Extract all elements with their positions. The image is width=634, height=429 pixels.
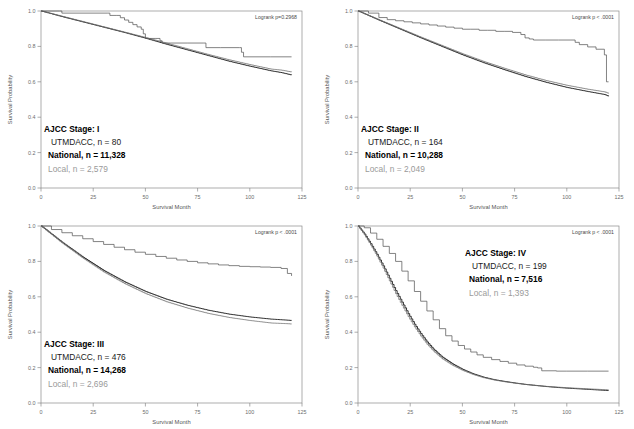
x-tick-label: 75	[512, 409, 518, 415]
y-tick-label: 0.0	[345, 185, 353, 191]
y-tick-label: 1.0	[28, 223, 36, 229]
y-tick-label: 0.0	[28, 400, 36, 406]
y-axis-title: Survival Probability	[324, 290, 330, 339]
y-tick-label: 0.6	[345, 294, 353, 300]
y-axis-title: Survival Probability	[7, 75, 13, 124]
annotation-local-label: Local, n = 2,696	[48, 379, 108, 389]
curve-utmdacc	[41, 226, 292, 276]
x-tick-label: 125	[298, 409, 307, 415]
survival-curve-figure: 02550751001251.00.80.60.40.20.0Survival …	[0, 0, 634, 429]
annotation-utmdacc-label: UTMDACC, n = 164	[368, 137, 443, 147]
y-tick-label: 1.0	[28, 8, 36, 14]
x-tick-label: 25	[407, 194, 413, 200]
y-tick-label: 0.6	[345, 79, 353, 85]
annotation-stage-label: AJCC Stage: II	[361, 124, 419, 134]
annotation-utmdacc-label: UTMDACC, n = 476	[51, 352, 126, 362]
logrank-pvalue-label: Logrank p < .0001	[572, 14, 614, 20]
x-axis-title: Survival Month	[152, 204, 190, 210]
x-tick-label: 0	[357, 409, 360, 415]
x-tick-label: 50	[142, 194, 148, 200]
x-tick-label: 100	[562, 194, 571, 200]
annotation-national-label: National, n = 11,328	[48, 150, 126, 160]
x-tick-label: 125	[615, 409, 624, 415]
y-tick-label: 0.0	[28, 185, 36, 191]
annotation-local-label: Local, n = 1,393	[469, 288, 529, 298]
y-tick-label: 0.8	[28, 258, 36, 264]
annotation-national-label: National, n = 10,288	[365, 150, 443, 160]
x-tick-label: 50	[459, 194, 465, 200]
y-tick-label: 0.0	[345, 400, 353, 406]
survival-panel-stage-2: 02550751001251.00.80.60.40.20.0Survival …	[317, 0, 634, 214]
y-tick-label: 0.2	[345, 150, 353, 156]
x-axis-title: Survival Month	[152, 419, 190, 425]
x-tick-label: 0	[357, 194, 360, 200]
curve-national	[358, 11, 609, 96]
annotation-local-label: Local, n = 2,049	[365, 164, 425, 174]
y-axis-title: Survival Probability	[7, 290, 13, 339]
x-tick-label: 25	[90, 409, 96, 415]
curve-national	[41, 226, 292, 321]
curve-utmdacc	[358, 11, 609, 82]
x-tick-label: 25	[90, 194, 96, 200]
y-tick-label: 1.0	[345, 8, 353, 14]
y-tick-label: 0.2	[345, 365, 353, 371]
x-tick-label: 50	[142, 409, 148, 415]
curve-local	[41, 11, 292, 72]
annotation-stage-label: AJCC Stage: IV	[465, 248, 526, 258]
annotation-national-label: National, n = 7,516	[469, 274, 543, 284]
x-tick-label: 125	[298, 194, 307, 200]
y-tick-label: 0.4	[345, 114, 353, 120]
survival-panel-stage-1: 02550751001251.00.80.60.40.20.0Survival …	[0, 0, 317, 214]
x-tick-label: 25	[407, 409, 413, 415]
curve-utmdacc	[41, 11, 292, 57]
annotation-national-label: National, n = 14,268	[48, 365, 126, 375]
y-tick-label: 0.6	[28, 294, 36, 300]
x-tick-label: 100	[245, 409, 254, 415]
survival-panel-stage-4: 02550751001251.00.80.60.40.20.0Survival …	[317, 215, 634, 429]
x-tick-label: 100	[245, 194, 254, 200]
survival-panel-stage-3: 02550751001251.00.80.60.40.20.0Survival …	[0, 215, 317, 429]
curve-local	[358, 11, 609, 93]
plot-frame	[41, 11, 302, 188]
x-axis-title: Survival Month	[469, 419, 507, 425]
y-tick-label: 1.0	[345, 223, 353, 229]
x-tick-label: 75	[512, 194, 518, 200]
y-tick-label: 0.4	[28, 329, 36, 335]
plot-frame	[358, 11, 619, 188]
y-tick-label: 0.8	[345, 43, 353, 49]
y-tick-label: 0.4	[28, 114, 36, 120]
y-tick-label: 0.8	[345, 258, 353, 264]
curve-local	[41, 226, 292, 324]
logrank-pvalue-label: Logrank p=0.2968	[255, 14, 297, 20]
x-tick-label: 75	[195, 409, 201, 415]
annotation-utmdacc-label: UTMDACC, n = 199	[472, 261, 547, 271]
y-tick-label: 0.8	[28, 43, 36, 49]
y-tick-label: 0.6	[28, 79, 36, 85]
annotation-utmdacc-label: UTMDACC, n = 80	[51, 137, 121, 147]
y-axis-title: Survival Probability	[324, 75, 330, 124]
annotation-stage-label: AJCC Stage: III	[44, 339, 104, 349]
x-tick-label: 125	[615, 194, 624, 200]
x-tick-label: 0	[40, 409, 43, 415]
x-axis-title: Survival Month	[469, 204, 507, 210]
x-tick-label: 75	[195, 194, 201, 200]
annotation-stage-label: AJCC Stage: I	[44, 124, 99, 134]
x-tick-label: 100	[562, 409, 571, 415]
x-tick-label: 0	[40, 194, 43, 200]
plot-frame	[41, 226, 302, 403]
annotation-local-label: Local, n = 2,579	[48, 164, 108, 174]
y-tick-label: 0.2	[28, 365, 36, 371]
logrank-pvalue-label: Logrank p < .0001	[255, 229, 297, 235]
y-tick-label: 0.4	[345, 329, 353, 335]
y-tick-label: 0.2	[28, 150, 36, 156]
x-tick-label: 50	[459, 409, 465, 415]
logrank-pvalue-label: Logrank p < .0001	[572, 229, 614, 235]
